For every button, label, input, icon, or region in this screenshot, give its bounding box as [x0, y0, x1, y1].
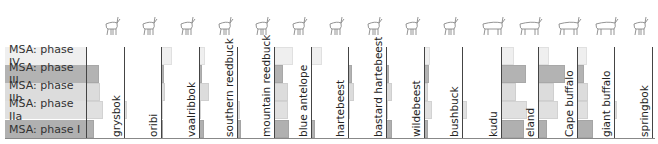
species-label: wildebeest [410, 80, 422, 137]
springbok-icon [632, 14, 650, 40]
bar [577, 120, 593, 138]
baseline [274, 47, 275, 138]
antelope-icon [291, 14, 309, 40]
baseline [462, 47, 463, 138]
bar [577, 65, 584, 83]
bar [86, 65, 99, 83]
species-label: springbok [638, 85, 650, 137]
bar [199, 83, 209, 101]
bar [274, 101, 288, 119]
bar [274, 120, 289, 138]
bar [501, 47, 514, 65]
bar [577, 83, 588, 101]
species-label: oribi [147, 114, 159, 137]
species-label: kudu [487, 111, 499, 137]
phase-label: MSA: phase IIa [5, 101, 86, 119]
baseline [386, 47, 387, 138]
baseline [311, 47, 312, 138]
buffalo-icon [557, 14, 583, 40]
x-axis [5, 138, 655, 139]
small-antelope-icon [104, 14, 122, 40]
chart: MSA: phase IVMSA: phase IIIMSA: phase II… [0, 0, 658, 144]
bushbuck-icon [442, 14, 460, 40]
baseline [237, 47, 238, 138]
baseline [577, 47, 578, 138]
species-label: Cape buffalo [563, 70, 575, 137]
bar [538, 83, 554, 101]
bar [538, 101, 558, 119]
kudu-icon [481, 14, 507, 40]
bar [501, 83, 516, 101]
species-label: bushbuck [448, 86, 460, 137]
reedbuck-icon [217, 14, 235, 40]
baseline [501, 47, 502, 138]
species-label: blue antelope [297, 65, 309, 137]
baseline [199, 47, 200, 138]
species-label: bastard hartebeest [372, 37, 384, 137]
species-label: mountain reedbuck [260, 35, 272, 137]
hartebeest-icon [366, 14, 384, 40]
bar [577, 47, 587, 65]
bar [311, 47, 322, 65]
baseline [614, 47, 615, 138]
baseline [124, 47, 125, 138]
bar [274, 65, 283, 83]
species-label: hartebeest [334, 80, 346, 137]
bar [538, 47, 549, 65]
bar [538, 65, 565, 83]
baseline [86, 47, 87, 138]
baseline [652, 47, 653, 138]
small-antelope-icon [141, 14, 159, 40]
species-label: vaalribbok [185, 82, 197, 137]
eland-icon [518, 14, 544, 40]
species-label: giant buffalo [600, 71, 612, 137]
baseline [538, 47, 539, 138]
species-label: grysbok [110, 95, 122, 137]
small-antelope-icon [179, 14, 197, 40]
bar [501, 65, 526, 83]
giant-buffalo-icon [594, 14, 620, 40]
bar [538, 120, 547, 138]
wildebeest-icon [404, 14, 422, 40]
baseline [161, 47, 162, 138]
bar [577, 101, 588, 119]
bar [274, 83, 288, 101]
bar [161, 47, 172, 65]
reedbuck-icon [254, 14, 272, 40]
bar [274, 47, 293, 65]
bar [86, 83, 100, 101]
bar [86, 101, 103, 119]
bar [501, 120, 524, 138]
species-label: southern reedbuck [223, 38, 235, 137]
baseline [424, 47, 425, 138]
phase-label: MSA: phase I [5, 120, 86, 138]
bar [424, 101, 432, 119]
bar [86, 120, 94, 138]
baseline [348, 47, 349, 138]
species-label: eland [524, 108, 536, 137]
hartebeest-icon [328, 14, 346, 40]
